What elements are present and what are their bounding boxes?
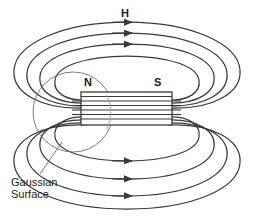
gaussian-surface-label: Gaussian Surface [11,176,57,201]
bar-magnet [72,92,181,125]
magnetic-field-diagram: H N S Gaussian Surface [0,0,255,216]
gaussian-surface-leader-line [40,142,62,174]
south-pole-label: S [154,76,161,88]
field-label-h: H [121,7,129,19]
north-pole-label: N [84,76,92,88]
